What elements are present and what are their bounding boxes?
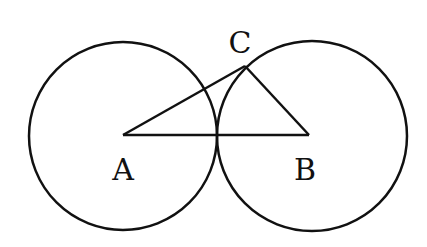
segment-bc — [245, 66, 309, 135]
point-label-b: B — [294, 152, 316, 187]
point-label-c: C — [229, 25, 252, 60]
point-label-a: A — [111, 152, 134, 187]
geometry-diagram: A B C — [0, 0, 427, 247]
segment-ac — [123, 66, 245, 135]
